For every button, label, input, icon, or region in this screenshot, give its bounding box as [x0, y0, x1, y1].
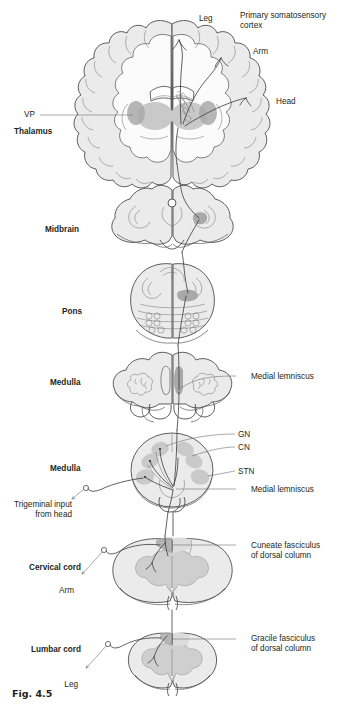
- label-lumbar-cord: Lumbar cord: [31, 645, 81, 655]
- sensory-receptor-head: [83, 485, 88, 490]
- sensory-receptor-arm: [101, 547, 106, 552]
- vp-nucleus: [127, 101, 145, 125]
- section-lumbar-cord: [86, 632, 236, 696]
- label-medial-lemniscus-upper: Medial lemniscus: [251, 372, 314, 382]
- label-gracile-line1: Gracile fasciculus: [251, 634, 315, 644]
- label-arm-cord: Arm: [36, 586, 74, 596]
- section-medulla-upper: [113, 345, 236, 430]
- section-midbrain: [112, 183, 233, 252]
- label-thalamus: Thalamus: [14, 127, 52, 137]
- label-primary-cortex-line1: Primary somatosensory: [240, 11, 326, 21]
- label-cuneate-line1: Cuneate fasciculus: [251, 541, 320, 551]
- label-head-cortex: Head: [276, 97, 296, 107]
- label-medulla-upper: Medulla: [50, 378, 80, 388]
- label-vp: VP: [24, 110, 35, 120]
- figure-caption: Fig. 4.5: [12, 688, 52, 699]
- label-primary-cortex-line2: cortex: [240, 21, 262, 31]
- label-cervical-cord: Cervical cord: [29, 563, 81, 573]
- label-medulla-lower: Medulla: [50, 464, 80, 474]
- cerebral-aqueduct: [168, 199, 176, 207]
- label-gracile-line2: of dorsal column: [251, 644, 311, 654]
- label-medial-lemniscus-lower: Medial lemniscus: [251, 485, 314, 495]
- sensory-receptor-leg: [105, 641, 110, 646]
- section-pons: [131, 252, 215, 345]
- label-cuneate-line2: of dorsal column: [251, 551, 311, 561]
- label-trigeminal-line2: from head: [0, 510, 72, 520]
- label-pons: Pons: [62, 307, 82, 317]
- section-medulla-lower: [72, 430, 236, 536]
- label-leg-cortex: Leg: [199, 14, 213, 24]
- label-gn: GN: [238, 430, 250, 440]
- label-cn: CN: [238, 443, 250, 453]
- label-stn: STN: [238, 467, 254, 477]
- label-arm-cortex: Arm: [253, 47, 268, 57]
- section-cervical-cord: [82, 536, 236, 640]
- label-trigeminal-line1: Trigeminal input: [0, 500, 72, 510]
- label-midbrain: Midbrain: [45, 225, 79, 235]
- section-cerebrum-coronal: [40, 21, 270, 188]
